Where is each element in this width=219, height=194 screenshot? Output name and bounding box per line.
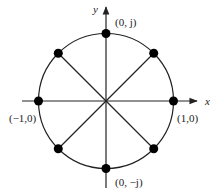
x-axis-label: x: [204, 95, 210, 107]
point-north-west: [54, 49, 63, 58]
spoke-south-west: [58, 101, 106, 149]
point-east: [169, 97, 178, 106]
spoke-south-east: [106, 101, 154, 149]
label-north: (0, j): [115, 16, 137, 29]
unit-circle-diagram: x y (0, j) (−1,0) (1,0) (0, −j): [0, 0, 219, 194]
point-west: [34, 97, 43, 106]
point-north-east: [149, 49, 158, 58]
label-east: (1,0): [177, 112, 198, 125]
point-south-east: [149, 144, 158, 153]
spoke-north-east: [106, 53, 154, 101]
label-west: (−1,0): [9, 112, 37, 125]
point-south-west: [54, 144, 63, 153]
label-south: (0, −j): [115, 176, 143, 189]
point-south: [102, 164, 111, 173]
point-north: [102, 29, 111, 38]
y-axis-label: y: [92, 3, 98, 15]
spoke-north-west: [58, 53, 106, 101]
